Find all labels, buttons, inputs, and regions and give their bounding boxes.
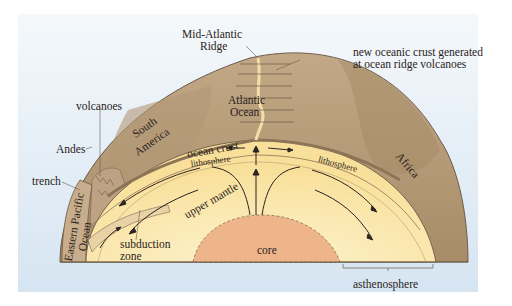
label-andes: Andes [56, 143, 85, 155]
label-new-crust-1: new oceanic crust generated [353, 46, 483, 58]
label-subduction-2: zone [120, 250, 142, 262]
label-mid-atlantic-ridge-2: Ridge [200, 40, 227, 52]
label-core: core [257, 244, 277, 256]
label-atlantic-1: Atlantic [228, 94, 265, 106]
label-asthenosphere: asthenosphere [353, 278, 418, 290]
label-trench: trench [32, 175, 61, 187]
label-new-crust-2: at ocean ridge volcanoes [353, 58, 466, 70]
label-subduction-1: subduction [120, 238, 170, 250]
label-atlantic-2: Ocean [230, 106, 259, 118]
label-mid-atlantic-ridge-1: Mid-Atlantic [182, 28, 242, 40]
label-volcanoes: volcanoes [76, 100, 122, 112]
